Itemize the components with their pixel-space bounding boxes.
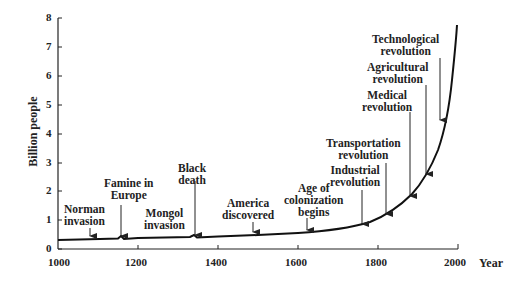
y-tick-label: 0 xyxy=(46,242,52,254)
y-tick-label: 5 xyxy=(46,98,52,110)
x-ticks xyxy=(138,244,458,249)
x-tick-label: 1400 xyxy=(205,256,227,268)
y-tick-label: 1 xyxy=(46,213,52,225)
annotation-transportation-revolution: Transportation revolution xyxy=(326,137,401,161)
annotation-america-discovered: America discovered xyxy=(222,197,274,221)
x-tick-label: 1800 xyxy=(365,256,387,268)
annotation-medical-revolution: Medical revolution xyxy=(362,89,412,113)
annotation-black-death: Black death xyxy=(178,162,206,186)
x-tick-label: 1200 xyxy=(125,256,147,268)
annotation-norman-invasion: Norman invasion xyxy=(64,203,105,227)
annotation-technological-revolution: Technological revolution xyxy=(372,33,439,57)
annotation-industrial-revolution: Industrial revolution xyxy=(330,164,380,188)
annotation-agricultural-revolution: Agricultural revolution xyxy=(367,61,428,85)
y-tick-label: 6 xyxy=(46,69,52,81)
y-tick-label: 2 xyxy=(46,184,52,196)
x-tick-label: 2000 xyxy=(444,256,466,268)
y-tick-label: 3 xyxy=(46,156,52,168)
y-axis-label: Billion people xyxy=(26,92,41,172)
x-tick-label: 1000 xyxy=(48,256,70,268)
x-axis-label: Year xyxy=(479,256,503,271)
annotation-mongol-invasion: Mongol invasion xyxy=(144,207,185,231)
y-tick-label: 7 xyxy=(46,40,52,52)
annotation-famine-in-europe: Famine in Europe xyxy=(104,177,154,201)
y-tick-label: 8 xyxy=(46,11,52,23)
population-chart xyxy=(0,0,532,283)
y-tick-label: 4 xyxy=(46,127,52,139)
x-tick-label: 1600 xyxy=(285,256,307,268)
